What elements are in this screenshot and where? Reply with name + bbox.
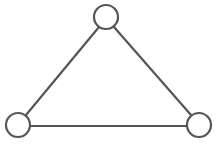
- edge-top-bottom-left: [26, 27, 99, 115]
- node-top: [94, 5, 118, 29]
- node-bottom-right: [187, 113, 211, 137]
- nodes: [6, 5, 211, 137]
- node-bottom-left: [6, 113, 30, 137]
- edge-top-bottom-right: [114, 27, 191, 115]
- edges: [26, 27, 191, 126]
- triangle-graph-diagram: [0, 0, 216, 150]
